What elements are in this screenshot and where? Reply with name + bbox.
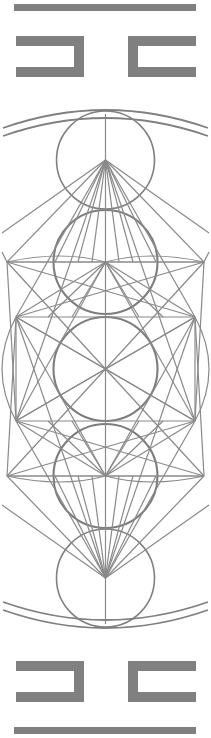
top-rule-bar [14,4,196,11]
sacred-geometry-svg [0,0,211,738]
bottom-rule-bar [14,727,196,734]
top-right-bracket-icon [128,36,196,77]
ornament-panel [0,0,211,738]
top-left-bracket-icon [16,36,84,77]
bottom-right-bracket-icon [128,661,196,702]
bottom-left-bracket-icon [16,661,84,702]
